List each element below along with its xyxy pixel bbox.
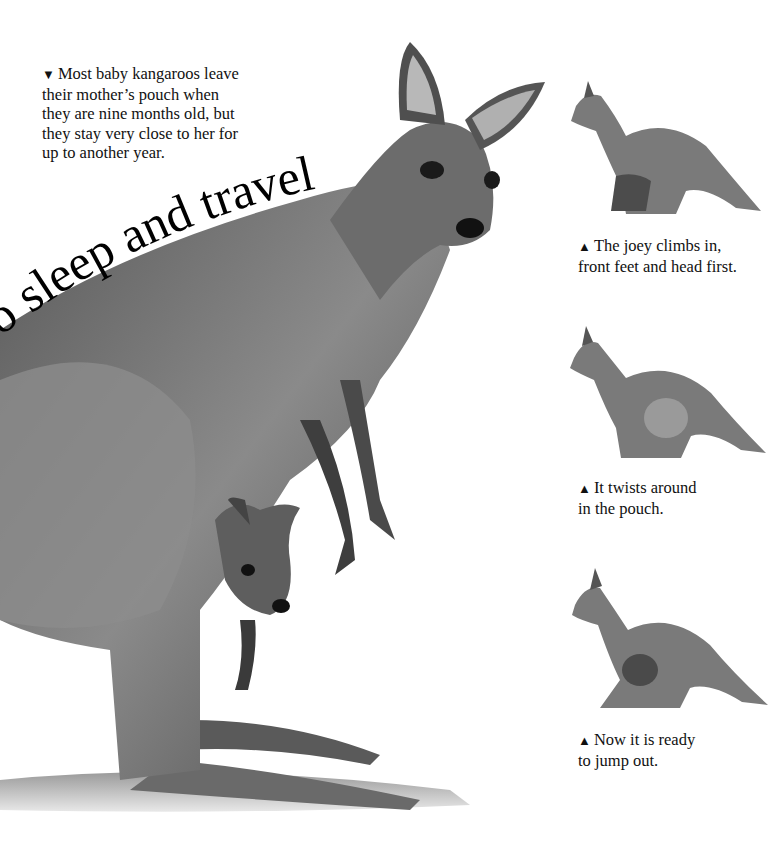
caption-line: in the pouch. [578,499,664,518]
intro-line: they stay very close to her for [42,124,238,143]
caption-line: to jump out. [578,751,658,770]
intro-line: their mother’s pouch when [42,85,219,104]
caption-step-3: ▲Now it is ready to jump out. [578,730,768,770]
intro-line: up to another year. [42,143,165,162]
caption-step-2: ▲It twists around in the pouch. [578,478,768,518]
caption-line: front feet and head first. [578,257,737,276]
caption-step-1: ▲The joey climbs in, front feet and head… [578,236,768,276]
sequence-kangaroo-2 [566,318,766,468]
up-triangle-icon: ▲ [578,481,591,496]
caption-line: It twists around [594,478,697,497]
intro-line: they are nine months old, but [42,104,234,123]
book-page: to sleep and travel ▼Most baby kangaroos… [0,0,768,859]
sequence-kangaroo-3 [570,560,768,715]
caption-line: The joey climbs in, [594,236,721,255]
up-triangle-icon: ▲ [578,239,591,254]
intro-line: Most baby kangaroos leave [58,64,239,83]
caption-line: Now it is ready [594,730,695,749]
down-triangle-icon: ▼ [42,67,55,82]
intro-caption: ▼Most baby kangaroos leave their mother’… [42,64,282,163]
sequence-kangaroo-1 [566,76,766,226]
up-triangle-icon: ▲ [578,733,591,748]
